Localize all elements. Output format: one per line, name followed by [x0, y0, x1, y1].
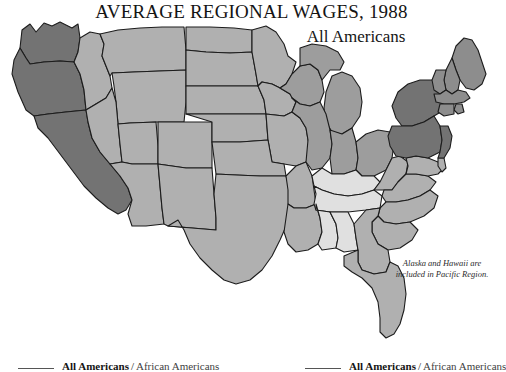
choropleth-map[interactable]: [0, 18, 503, 358]
state-co: [158, 122, 212, 168]
state-ut: [118, 122, 158, 164]
state-mt: [100, 27, 186, 76]
state-ri: [454, 104, 464, 114]
us-map-svg: [0, 18, 503, 358]
legend-left-separator: /: [129, 360, 136, 372]
legend-right-separator: /: [416, 360, 423, 372]
legend-item-right[interactable]: All Americans/African Americans: [305, 356, 506, 372]
legend-right-group-a: All Americans: [349, 360, 416, 372]
map-annotation: Alaska and Hawaii are included in Pacifi…: [383, 258, 501, 280]
annotation-line-1: Alaska and Hawaii are: [403, 258, 481, 268]
legend-item-left[interactable]: All Americans/African Americans: [18, 356, 219, 372]
legend: All Americans/African Americans All Amer…: [0, 356, 503, 372]
annotation-line-2: included in Pacific Region.: [396, 269, 489, 279]
state-wy: [112, 70, 186, 124]
legend-label-left: All Americans/African Americans: [62, 361, 219, 372]
state-la: [284, 204, 322, 252]
state-vt: [432, 70, 446, 94]
state-wa: [20, 22, 80, 64]
state-nm: [158, 164, 216, 230]
legend-right-group-b: African Americans: [423, 360, 506, 372]
state-in: [330, 128, 358, 174]
state-ne: [186, 86, 266, 114]
legend-left-group-b: African Americans: [136, 360, 219, 372]
state-sd: [186, 50, 258, 86]
legend-swatch-right: [305, 360, 341, 369]
legend-label-right: All Americans/African Americans: [349, 361, 506, 372]
legend-swatch-left: [18, 360, 54, 369]
legend-left-group-a: All Americans: [62, 360, 129, 372]
state-ct: [438, 104, 454, 116]
state-nd: [186, 27, 252, 53]
